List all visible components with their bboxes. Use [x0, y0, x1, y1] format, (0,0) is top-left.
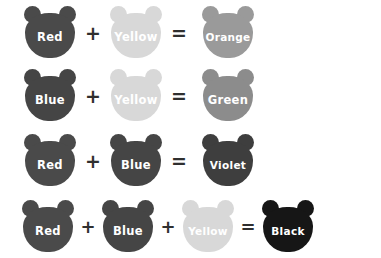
plus-operator: + — [156, 218, 180, 236]
bear-label: Blue — [22, 78, 78, 123]
equation-row-2: Blue + Yellow = Green — [0, 63, 381, 127]
bear-red-1: Red — [22, 6, 78, 58]
bear-green-result: Green — [200, 69, 256, 121]
equation-row-4: Red + Blue + Yellow = Black — [0, 194, 381, 258]
bear-label: Red — [22, 15, 78, 60]
equation-row-3: Red + Blue = Violet — [0, 128, 381, 192]
plus-operator: + — [78, 152, 108, 171]
bear-label: Yellow — [180, 209, 236, 254]
bear-orange-result: Orange — [200, 6, 256, 58]
equation-row-1: Red + Yellow = Orange — [0, 0, 381, 64]
equals-operator: = — [236, 218, 260, 236]
bear-label: Red — [20, 209, 76, 254]
color-mixing-diagram: Red + Yellow = Orange — [0, 0, 381, 258]
plus-operator: + — [76, 218, 100, 236]
plus-operator: + — [78, 87, 108, 106]
bear-label: Green — [200, 78, 256, 123]
bear-yellow-4: Yellow — [180, 200, 236, 252]
equals-operator: = — [164, 87, 194, 106]
bear-red-3: Red — [22, 134, 78, 186]
bear-label: Violet — [200, 143, 256, 188]
bear-yellow-2: Yellow — [108, 69, 164, 121]
bear-label: Blue — [100, 209, 156, 254]
bear-blue-2: Blue — [22, 69, 78, 121]
bear-red-4: Red — [20, 200, 76, 252]
bear-label: Yellow — [108, 15, 164, 60]
bear-blue-3: Blue — [108, 134, 164, 186]
bear-yellow-1: Yellow — [108, 6, 164, 58]
bear-label: Blue — [108, 143, 164, 188]
bear-blue-4: Blue — [100, 200, 156, 252]
equals-operator: = — [164, 24, 194, 43]
plus-operator: + — [78, 24, 108, 43]
bear-violet-result: Violet — [200, 134, 256, 186]
bear-label: Black — [260, 209, 316, 254]
bear-black-result: Black — [260, 200, 316, 252]
equals-operator: = — [164, 152, 194, 171]
bear-label: Yellow — [108, 78, 164, 123]
bear-label: Red — [22, 143, 78, 188]
bear-label: Orange — [200, 15, 256, 60]
